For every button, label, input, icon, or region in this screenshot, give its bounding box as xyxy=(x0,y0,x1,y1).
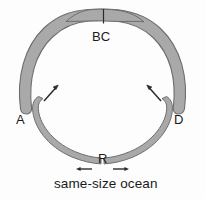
upper-band-group xyxy=(19,9,185,114)
right-convergence-arrow xyxy=(147,85,161,101)
label-bc: BC xyxy=(92,30,110,43)
label-d: D xyxy=(174,113,184,126)
upper-band-shape xyxy=(19,9,185,114)
label-a: A xyxy=(16,113,25,126)
left-convergence-arrow xyxy=(44,85,58,101)
lower-band-left-arm xyxy=(33,97,101,164)
caption-same-size-ocean: same-size ocean xyxy=(54,177,158,191)
label-r: R xyxy=(98,152,108,165)
spreading-arrow-left xyxy=(76,167,92,171)
convergence-arrows-group xyxy=(44,85,161,101)
spreading-arrow-right xyxy=(113,167,129,171)
diagram-canvas: BC A D R same-size ocean xyxy=(0,0,205,199)
spreading-arrows-group xyxy=(76,167,129,171)
lower-band-right-arm xyxy=(104,97,172,164)
